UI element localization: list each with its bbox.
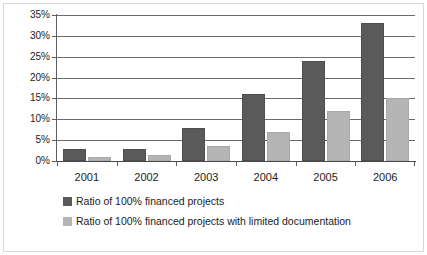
bar-2002-series-1 xyxy=(123,149,146,162)
bar-2004-series-2 xyxy=(267,132,290,161)
x-tick-label-2002: 2002 xyxy=(117,171,177,183)
x-tick-label-2004: 2004 xyxy=(236,171,296,183)
bar-2002-series-2 xyxy=(148,155,171,161)
x-axis-tick-marks xyxy=(57,162,415,167)
chart-legend: Ratio of 100% financed projects Ratio of… xyxy=(63,196,403,236)
bar-2001-series-2 xyxy=(88,157,111,161)
bar-2006-series-2 xyxy=(386,98,409,161)
x-tick-label-2001: 2001 xyxy=(57,171,117,183)
bar-group-2004 xyxy=(236,15,296,161)
legend-label-series-1: Ratio of 100% financed projects xyxy=(76,196,224,207)
legend-item-series-2: Ratio of 100% financed projects with lim… xyxy=(63,216,403,227)
legend-label-series-2: Ratio of 100% financed projects with lim… xyxy=(76,216,351,227)
x-tick-mark-2005 xyxy=(296,162,356,167)
bar-group-2006 xyxy=(355,15,415,161)
bar-group-2002 xyxy=(117,15,177,161)
y-axis-tick-marks xyxy=(0,15,57,162)
light-swatch-icon xyxy=(63,217,72,226)
bar-group-2003 xyxy=(176,15,236,161)
dark-swatch-icon xyxy=(63,197,72,206)
bar-2006-series-1 xyxy=(361,23,384,161)
x-tick-mark-2006 xyxy=(355,162,415,167)
bar-2003-series-2 xyxy=(207,146,230,161)
x-tick-mark-2003 xyxy=(176,162,236,167)
bar-chart-figure: 0%5%10%15%20%25%30%35% 20012002200320042… xyxy=(0,0,427,255)
bar-group-2005 xyxy=(296,15,356,161)
bar-2005-series-1 xyxy=(302,61,325,161)
bar-2003-series-1 xyxy=(182,128,205,161)
bar-groups xyxy=(57,15,415,161)
x-tick-label-2006: 2006 xyxy=(355,171,415,183)
bar-2005-series-2 xyxy=(327,111,350,161)
bar-2001-series-1 xyxy=(63,149,86,162)
x-tick-mark-2004 xyxy=(236,162,296,167)
x-tick-label-2005: 2005 xyxy=(296,171,356,183)
x-axis-tick-labels: 200120022003200420052006 xyxy=(57,171,415,183)
x-tick-label-2003: 2003 xyxy=(176,171,236,183)
bar-2004-series-1 xyxy=(242,94,265,161)
x-tick-mark-2001 xyxy=(57,162,117,167)
legend-item-series-1: Ratio of 100% financed projects xyxy=(63,196,403,207)
x-tick-mark-2002 xyxy=(117,162,177,167)
bar-group-2001 xyxy=(57,15,117,161)
